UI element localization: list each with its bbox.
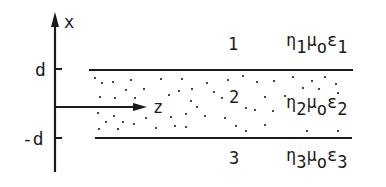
region-1-params: η1μoε1 — [286, 30, 348, 57]
region-3-number: 3 — [229, 148, 239, 168]
tick-label-minus-d: -d — [22, 128, 44, 149]
region-2-number: 2 — [229, 87, 239, 107]
svg-text:η3μoε3: η3μoε3 — [286, 145, 348, 172]
svg-text:η2μoε2: η2μoε2 — [286, 92, 348, 119]
tick-label-d: d — [35, 59, 46, 80]
z-axis-arrowhead — [133, 103, 147, 111]
region-3-params: η3μoε3 — [286, 145, 348, 172]
x-axis-arrowhead — [51, 12, 59, 27]
z-axis-label: z — [153, 97, 163, 117]
region-2-params: η2μoε2 — [286, 92, 348, 119]
x-axis-label: x — [64, 12, 74, 32]
slab-waveguide-diagram: x d -d z 1 2 3 η1μoε1 η2μ — [0, 0, 386, 187]
svg-text:η1μoε1: η1μoε1 — [286, 30, 348, 57]
region-1-number: 1 — [228, 34, 238, 54]
